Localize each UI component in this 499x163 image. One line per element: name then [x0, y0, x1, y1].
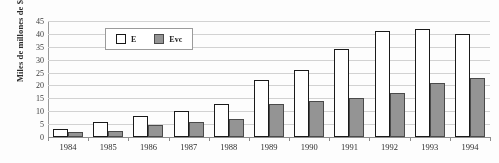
bar-chart-figure: Miles de millones de $ 05101520253035404… — [0, 0, 499, 163]
bar-e-1994 — [455, 34, 470, 137]
bar-group-1993 — [410, 21, 450, 137]
x-tick-mark — [209, 137, 210, 141]
legend-swatch-icon — [154, 34, 164, 44]
bar-group-1990 — [289, 21, 329, 137]
bar-evc-1987 — [189, 122, 204, 137]
x-tick-mark — [450, 137, 451, 141]
x-tick-mark — [88, 137, 89, 141]
y-tick-label: 15 — [4, 94, 44, 103]
legend-entry-e: E — [116, 34, 136, 44]
y-tick-label: 0 — [4, 133, 44, 142]
bar-evc-1986 — [148, 125, 163, 137]
y-tick-label: 5 — [4, 120, 44, 129]
bar-evc-1994 — [470, 78, 485, 137]
x-tick-label: 1986 — [128, 142, 168, 158]
x-tick-mark — [249, 137, 250, 141]
bar-e-1987 — [174, 111, 189, 137]
x-tick-mark — [369, 137, 370, 141]
x-tick-label: 1984 — [48, 142, 88, 158]
y-tick-label: 40 — [4, 29, 44, 38]
legend-entry-evc: Evc — [154, 34, 182, 44]
x-tick-mark — [169, 137, 170, 141]
bar-evc-1993 — [430, 83, 445, 137]
bar-e-1993 — [415, 29, 430, 137]
bar-evc-1989 — [269, 104, 284, 138]
bar-evc-1990 — [309, 101, 324, 137]
bar-e-1985 — [93, 122, 108, 137]
y-tick-label: 25 — [4, 68, 44, 77]
x-tick-label: 1990 — [289, 142, 329, 158]
bar-e-1992 — [375, 31, 390, 137]
legend-label: E — [131, 35, 136, 44]
bar-group-1994 — [450, 21, 490, 137]
y-tick-label: 20 — [4, 81, 44, 90]
bar-evc-1992 — [390, 93, 405, 137]
x-tick-label: 1988 — [209, 142, 249, 158]
bar-e-1988 — [214, 104, 229, 138]
x-tick-mark — [48, 137, 49, 141]
x-tick-label: 1987 — [169, 142, 209, 158]
x-axis-tick-labels: 1984198519861987198819891990199119921993… — [48, 142, 490, 158]
x-tick-label: 1992 — [370, 142, 410, 158]
legend-swatch-icon — [116, 34, 126, 44]
x-tick-mark — [128, 137, 129, 141]
y-tick-label: 45 — [4, 17, 44, 26]
bar-group-1989 — [249, 21, 289, 137]
bar-evc-1988 — [229, 119, 244, 137]
x-tick-mark — [289, 137, 290, 141]
x-tick-label: 1994 — [450, 142, 490, 158]
bar-group-1991 — [329, 21, 369, 137]
x-tick-mark — [410, 137, 411, 141]
y-axis-tick-labels: 051015202530354045 — [0, 21, 44, 137]
x-tick-label: 1989 — [249, 142, 289, 158]
bar-e-1986 — [133, 116, 148, 137]
y-tick-label: 10 — [4, 107, 44, 116]
y-tick-label: 35 — [4, 42, 44, 51]
bar-e-1990 — [294, 70, 309, 137]
x-tick-label: 1985 — [88, 142, 128, 158]
bar-e-1989 — [254, 80, 269, 137]
bar-e-1984 — [53, 129, 68, 137]
bar-group-1992 — [370, 21, 410, 137]
x-axis-ticks — [48, 137, 490, 141]
bar-group-1984 — [48, 21, 88, 137]
x-tick-label: 1993 — [410, 142, 450, 158]
chart-legend: EEvc — [105, 28, 193, 50]
x-tick-mark — [490, 137, 491, 141]
y-tick-label: 30 — [4, 55, 44, 64]
x-tick-label: 1991 — [329, 142, 369, 158]
bar-evc-1991 — [349, 98, 364, 137]
x-tick-mark — [329, 137, 330, 141]
bar-e-1991 — [334, 49, 349, 137]
bar-group-1988 — [209, 21, 249, 137]
legend-label: Evc — [169, 35, 182, 44]
